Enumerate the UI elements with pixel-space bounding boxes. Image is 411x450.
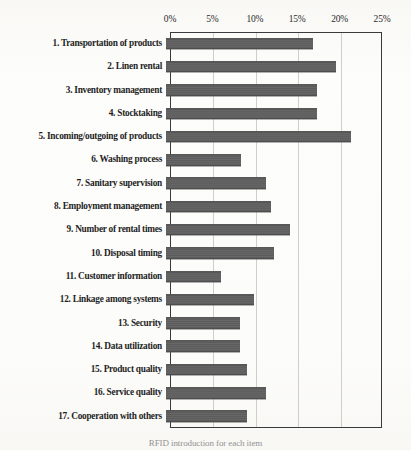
bar-track [166,381,378,404]
category-label: 15. Product quality [0,365,166,374]
category-label: 13. Security [0,319,166,328]
x-tick-label-4: 20% [331,14,348,24]
bar-track [166,148,378,171]
bar[interactable] [166,248,274,260]
bar[interactable] [166,131,351,143]
bar-row[interactable]: 6. Washing process [0,148,411,171]
bar-row[interactable]: 9. Number of rental times [0,218,411,241]
bar-track [166,55,378,78]
category-label: 16. Service quality [0,388,166,397]
bar[interactable] [166,154,241,166]
bar-track [166,32,378,55]
bar-track [166,335,378,358]
bar[interactable] [166,38,313,50]
bar-row[interactable]: 11. Customer information [0,265,411,288]
x-axis-tick-labels: 0%5%10%15%20%25% [0,14,411,30]
bar-row[interactable]: 5. Incoming/outgoing of products [0,125,411,148]
category-label: 2. Linen rental [0,62,166,71]
bar-track [166,195,378,218]
bar[interactable] [166,178,266,190]
category-label: 11. Customer information [0,272,166,281]
bar[interactable] [166,294,254,306]
bar-row[interactable]: 10. Disposal timing [0,242,411,265]
bar-rows: 1. Transportation of products2. Linen re… [0,32,411,428]
bar-chart-figure: 0%5%10%15%20%25% 1. Transportation of pr… [0,0,411,450]
x-tick-label-5: 25% [374,14,391,24]
bar-row[interactable]: 4. Stocktaking [0,102,411,125]
bar-row[interactable]: 12. Linkage among systems [0,288,411,311]
bar-track [166,172,378,195]
figure-caption: RFID introduction for each item [0,438,411,450]
bar-track [166,125,378,148]
category-label: 6. Washing process [0,155,166,164]
bar-row[interactable]: 13. Security [0,312,411,335]
category-label: 10. Disposal timing [0,249,166,258]
bar-row[interactable]: 3. Inventory management [0,79,411,102]
bar[interactable] [166,201,271,213]
bar-track [166,242,378,265]
bar-row[interactable]: 14. Data utilization [0,335,411,358]
category-label: 12. Linkage among systems [0,295,166,304]
category-label: 4. Stocktaking [0,109,166,118]
bar-track [166,405,378,428]
bar-row[interactable]: 15. Product quality [0,358,411,381]
bar-row[interactable]: 16. Service quality [0,381,411,404]
category-label: 8. Employment management [0,202,166,211]
category-label: 1. Transportation of products [0,39,166,48]
bar-track [166,218,378,241]
category-label: 14. Data utilization [0,342,166,351]
bar[interactable] [166,411,247,423]
bar-track [166,79,378,102]
category-label: 17. Cooperation with others [0,412,166,421]
bar[interactable] [166,84,317,96]
bar[interactable] [166,341,240,353]
category-label: 5. Incoming/outgoing of products [0,132,166,141]
bar-row[interactable]: 17. Cooperation with others [0,405,411,428]
bar[interactable] [166,61,336,73]
bar[interactable] [166,271,221,283]
bar-track [166,265,378,288]
bar[interactable] [166,364,247,376]
bar-row[interactable]: 2. Linen rental [0,55,411,78]
bar-row[interactable]: 7. Sanitary supervision [0,172,411,195]
bar[interactable] [166,224,290,236]
x-tick-label-3: 15% [289,14,306,24]
x-tick-label-1: 5% [206,14,218,24]
bar-row[interactable]: 1. Transportation of products [0,32,411,55]
bar-track [166,288,378,311]
bar[interactable] [166,317,240,329]
bar-track [166,312,378,335]
category-label: 9. Number of rental times [0,225,166,234]
bar-track [166,102,378,125]
x-tick-label-2: 10% [246,14,263,24]
category-label: 3. Inventory management [0,86,166,95]
bar[interactable] [166,108,317,120]
bar-track [166,358,378,381]
x-tick-label-0: 0% [164,14,176,24]
bar[interactable] [166,387,266,399]
category-label: 7. Sanitary supervision [0,179,166,188]
bar-row[interactable]: 8. Employment management [0,195,411,218]
